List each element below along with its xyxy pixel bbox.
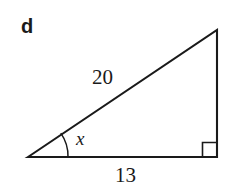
part-label: d: [21, 15, 33, 37]
geometry-figure: d 20 13 x: [0, 0, 235, 191]
hypotenuse-length-label: 20: [92, 65, 113, 89]
triangle-diagram: d 20 13 x: [0, 0, 235, 191]
base-length-label: 13: [115, 163, 136, 187]
angle-label: x: [75, 128, 85, 149]
